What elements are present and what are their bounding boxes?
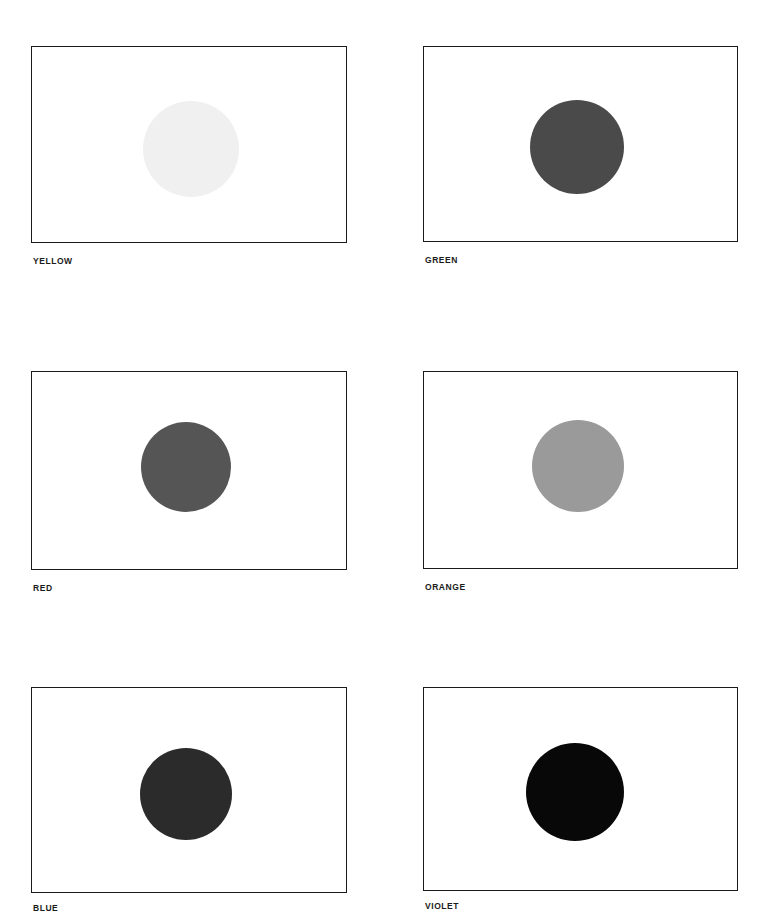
swatch-frame-red bbox=[31, 371, 347, 570]
swatch-frame-yellow bbox=[31, 46, 347, 243]
color-disc-yellow bbox=[143, 101, 239, 197]
color-disc-red bbox=[141, 422, 231, 512]
swatch-frame-blue bbox=[31, 687, 347, 893]
color-disc-green bbox=[530, 100, 624, 194]
color-disc-blue bbox=[140, 748, 232, 840]
swatch-frame-orange bbox=[423, 371, 738, 569]
swatch-label-orange: ORANGE bbox=[425, 582, 466, 592]
color-disc-violet bbox=[526, 743, 624, 841]
color-disc-plate: YELLOWGREENREDORANGEBLUEVIOLET bbox=[0, 0, 772, 912]
swatch-label-green: GREEN bbox=[425, 255, 458, 265]
swatch-frame-violet bbox=[423, 687, 738, 891]
swatch-label-blue: BLUE bbox=[33, 903, 58, 912]
swatch-label-red: RED bbox=[33, 583, 53, 593]
color-disc-orange bbox=[532, 420, 624, 512]
swatch-label-violet: VIOLET bbox=[425, 901, 459, 911]
swatch-frame-green bbox=[423, 46, 738, 242]
swatch-label-yellow: YELLOW bbox=[33, 256, 73, 266]
